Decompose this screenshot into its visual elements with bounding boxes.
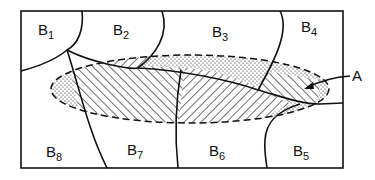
label-b7: B7 [127, 141, 143, 161]
label-b4: B4 [301, 18, 317, 38]
label-b8: B8 [46, 143, 62, 163]
label-b5: B5 [293, 142, 309, 162]
label-a: A [352, 67, 362, 84]
label-b6: B6 [209, 142, 225, 162]
boundary-b1 [21, 11, 82, 71]
label-b2: B2 [113, 21, 129, 41]
label-b1: B1 [38, 21, 54, 41]
region-diagram: A B1 B2 B3 B4 B5 B6 B7 B8 [0, 0, 375, 180]
label-b3: B3 [212, 23, 228, 43]
overlay-a-fill [40, 50, 340, 130]
